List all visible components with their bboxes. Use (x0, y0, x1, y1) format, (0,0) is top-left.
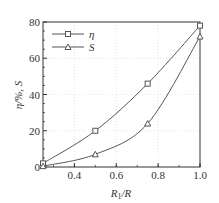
triangle-marker-icon (92, 151, 98, 157)
grid-lines (43, 22, 200, 167)
data-series (40, 23, 203, 168)
legend-label-eta: η (89, 28, 94, 40)
y-tick-label: 60 (29, 52, 41, 64)
legend-item-eta: η (52, 28, 94, 40)
x-tick-label: 0.4 (68, 169, 82, 181)
x-tick-label: 0.6 (109, 169, 123, 181)
square-marker-icon (145, 81, 150, 86)
x-axis-title: R1/R (110, 187, 132, 201)
square-marker-icon (66, 32, 71, 37)
square-marker-icon (93, 128, 98, 133)
x-tick-label: 0.8 (151, 169, 165, 181)
y-tick-label: 80 (29, 16, 41, 28)
legend-item-s: S (52, 41, 95, 53)
line-chart: 0.40.60.81.0020406080 η S R1/R η/%, S (0, 0, 219, 203)
legend-label-s: S (89, 41, 95, 53)
y-axis-title: η/%, S (12, 80, 24, 109)
y-tick-label: 0 (35, 161, 41, 173)
y-tick-label: 40 (29, 89, 41, 101)
y-tick-label: 20 (29, 125, 41, 137)
series-s (40, 34, 203, 169)
triangle-marker-icon (197, 34, 203, 40)
square-marker-icon (198, 23, 203, 28)
legend: η S (52, 28, 95, 53)
x-tick-label: 1.0 (193, 169, 207, 181)
